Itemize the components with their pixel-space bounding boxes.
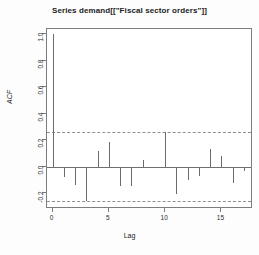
acf-spike-lag-4 [98,151,99,167]
y-tick-label-5: 0.0 [37,165,44,174]
x-tick-0 [52,208,53,212]
y-tick-label-4: 0.2 [37,139,44,148]
acf-spike-lag-2 [75,167,76,186]
acf-spike-lag-11 [176,167,177,195]
acf-spike-lag-13 [199,167,200,176]
acf-spike-lag-15 [221,156,222,167]
y-tick-label-2: 0.6 [37,86,44,95]
plot-panel [46,28,252,208]
y-tick-label-6: -0.2 [37,192,44,203]
x-tick-label-2: 10 [154,214,174,221]
acf-spike-lag-9 [154,167,155,168]
confidence-band-upper [47,132,251,133]
y-tick-label-0: 1.0 [37,33,44,42]
acf-spike-lag-10 [165,132,166,166]
x-tick-label-0: 0 [42,214,62,221]
x-tick-label-3: 15 [210,214,230,221]
acf-spike-lag-7 [131,167,132,187]
x-tick-3 [220,208,221,212]
acf-spike-lag-17 [244,167,245,171]
acf-spike-lag-1 [64,167,65,178]
acf-spike-lag-14 [210,149,211,166]
plot-area [47,29,251,207]
x-axis-label: Lag [0,232,259,239]
page-title: Series demand[["Fiscal sector orders"]] [0,6,259,15]
y-axis-label: ACF [6,90,13,104]
confidence-band-lower [47,201,251,202]
x-tick-label-1: 5 [98,214,118,221]
acf-spike-lag-3 [86,167,87,201]
acf-spike-lag-6 [120,167,121,187]
acf-spike-lag-8 [143,160,144,167]
x-tick-2 [164,208,165,212]
acf-spike-lag-5 [109,142,110,167]
acf-spike-lag-16 [233,167,234,183]
x-tick-1 [108,208,109,212]
acf-plot: Series demand[["Fiscal sector orders"]] … [0,0,259,255]
zero-baseline [47,167,251,168]
y-tick-label-3: 0.4 [37,112,44,121]
acf-spike-lag-0 [53,34,54,166]
acf-spike-lag-12 [188,167,189,180]
y-tick-label-1: 0.8 [37,59,44,68]
